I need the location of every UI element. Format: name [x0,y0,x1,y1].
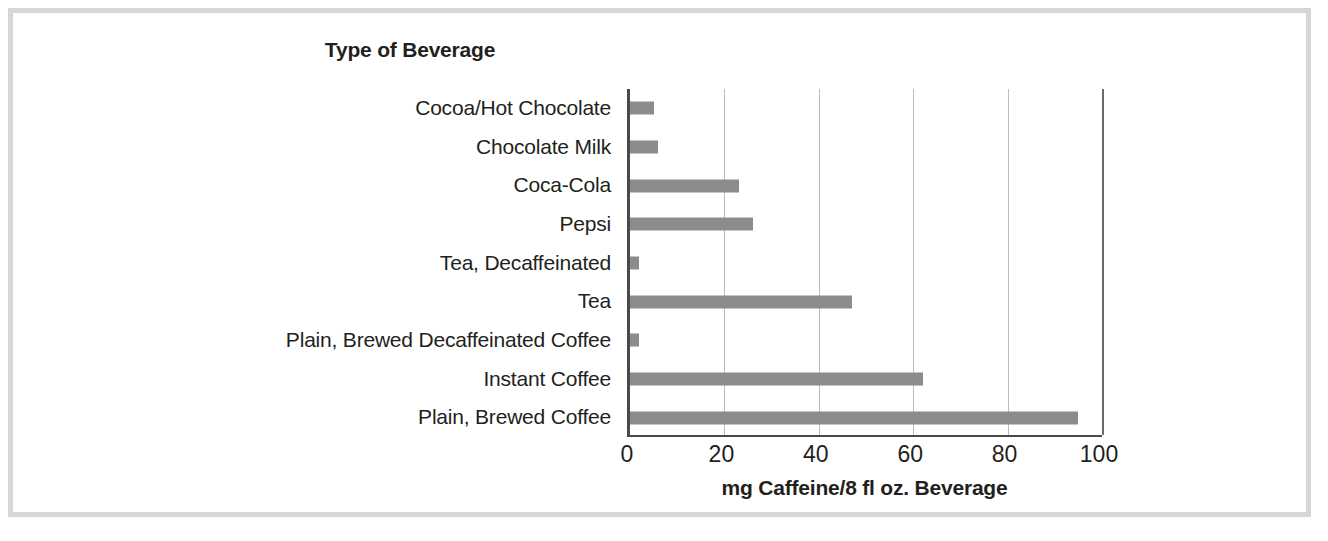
bar [630,372,923,385]
x-axis-title: mg Caffeine/8 fl oz. Beverage [627,476,1102,500]
bar-row [630,128,1102,167]
bar-row [630,205,1102,244]
bar-row [630,166,1102,205]
bar-row [630,398,1102,437]
bar-row [630,321,1102,360]
y-axis-label: Plain, Brewed Coffee [418,398,611,437]
bar-row [630,244,1102,283]
y-axis-label: Pepsi [559,205,611,244]
x-tick-label-60: 60 [897,441,923,468]
y-axis-label: Tea, Decaffeinated [440,244,611,283]
gridline-100 [1102,89,1104,435]
chart-title: Type of Beverage [200,38,620,62]
bar [630,218,753,231]
bar [630,179,739,192]
bar [630,102,654,115]
x-tick-label-40: 40 [803,441,829,468]
x-tick-label-100: 100 [1080,441,1118,468]
bar-row [630,360,1102,399]
y-axis-label: Instant Coffee [483,360,611,399]
bar-row [630,282,1102,321]
bar [630,256,639,269]
bar [630,334,639,347]
x-tick-label-20: 20 [709,441,735,468]
x-tick-label-0: 0 [621,441,634,468]
x-tick-label-80: 80 [992,441,1018,468]
y-axis-label: Cocoa/Hot Chocolate [415,89,611,128]
y-axis-label: Tea [578,282,611,321]
x-axis-tick-labels: 020406080100 [627,441,1102,473]
y-axis-label: Chocolate Milk [476,128,611,167]
chart-figure: Type of Beverage Cocoa/Hot ChocolateChoc… [0,0,1328,541]
bar [630,140,658,153]
y-axis-category-labels: Cocoa/Hot ChocolateChocolate MilkCoca-Co… [150,89,617,437]
bar [630,411,1078,424]
plot-area [627,89,1102,437]
bar-row [630,89,1102,128]
bar [630,295,852,308]
y-axis-label: Plain, Brewed Decaffeinated Coffee [286,321,611,360]
y-axis-label: Coca-Cola [514,166,611,205]
